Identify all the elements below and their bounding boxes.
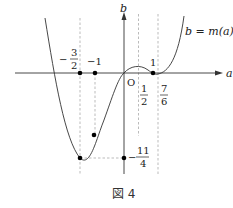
figure-caption: 図 4: [112, 187, 135, 201]
origin-label: O: [127, 77, 135, 88]
svg-text:6: 6: [161, 96, 167, 107]
point-minimum: [78, 156, 83, 161]
point-a-neg-three-halves: [78, 71, 83, 76]
tick-label-neg-eleven-fourths: − 11 4: [128, 145, 150, 169]
svg-text:1: 1: [141, 83, 147, 94]
svg-text:−: −: [59, 54, 67, 65]
a-axis: [15, 71, 223, 76]
b-axis-label: b: [120, 2, 127, 15]
point-b-neg-eleven-fourths: [122, 156, 127, 161]
a-axis-arrow-icon: [215, 71, 223, 76]
svg-text:2: 2: [71, 60, 77, 71]
svg-text:7: 7: [161, 83, 167, 94]
graph-figure: a b O b = m(a) − 3 2 −1 1 1 2 7 6 − 11 4…: [0, 0, 233, 208]
curve-label: b = m(a): [185, 25, 233, 38]
a-axis-label: a: [226, 67, 233, 80]
tick-label-neg-three-halves: − 3 2: [59, 47, 78, 71]
point-curve-at-neg-one: [92, 133, 97, 138]
tick-label-seven-sixths: 7 6: [160, 83, 168, 107]
point-a-one: [151, 71, 156, 76]
tick-label-one: 1: [150, 57, 156, 68]
svg-text:2: 2: [141, 96, 147, 107]
point-a-neg-one: [93, 71, 98, 76]
svg-text:11: 11: [137, 145, 150, 156]
svg-text:−: −: [128, 152, 136, 163]
tick-label-neg-one: −1: [87, 56, 102, 67]
tick-label-one-half: 1 2: [140, 83, 148, 107]
svg-text:3: 3: [71, 47, 77, 58]
svg-text:4: 4: [140, 158, 146, 169]
b-axis: [122, 12, 127, 174]
